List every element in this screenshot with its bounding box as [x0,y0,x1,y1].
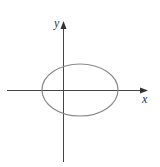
x-axis-label: x [141,92,148,106]
y-axis-label: y [53,16,60,30]
coordinate-diagram: x y [0,0,160,167]
y-axis-arrow-icon [61,21,67,29]
